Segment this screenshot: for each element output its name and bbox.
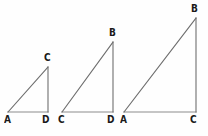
triangle-medium-label-bottom-left: C	[58, 114, 65, 125]
triangles-canvas	[0, 0, 208, 136]
triangle-medium	[62, 42, 113, 112]
triangle-medium-label-apex: B	[109, 27, 116, 38]
triangle-small-label-bottom-right: D	[42, 114, 49, 125]
triangle-medium-hypotenuse	[62, 42, 113, 112]
geometry-figure: A D C C D B A C B	[0, 0, 208, 136]
triangle-medium-label-bottom-right: D	[107, 114, 114, 125]
triangle-large-label-bottom-right: C	[190, 114, 197, 125]
triangle-large-label-bottom-left: A	[120, 114, 127, 125]
triangle-large-label-apex: B	[191, 3, 198, 14]
triangle-small-label-apex: C	[44, 52, 51, 63]
triangle-small-hypotenuse	[8, 67, 48, 112]
triangle-small-label-bottom-left: A	[4, 114, 11, 125]
triangle-small	[8, 67, 48, 112]
triangle-large-hypotenuse	[124, 18, 196, 112]
triangle-large	[124, 18, 196, 112]
